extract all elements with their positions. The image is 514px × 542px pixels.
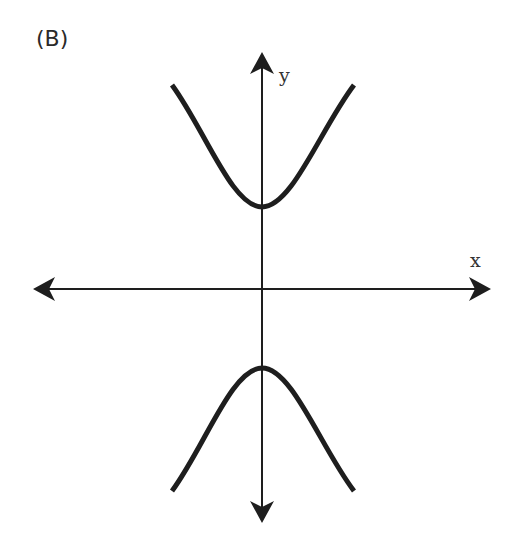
y-axis [250, 52, 274, 523]
hyperbola-graph [0, 0, 514, 542]
